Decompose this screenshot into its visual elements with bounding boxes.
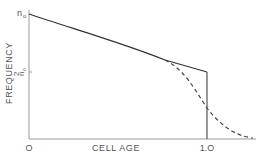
dashed-curve [165, 60, 253, 138]
x-axis-title: CELL AGE [92, 143, 140, 153]
y-label-n0-half: n o 2 [12, 68, 27, 76]
x-label-1: 1.O [200, 143, 215, 153]
x-label-origin: O [25, 143, 32, 153]
svg-text:o: o [21, 68, 27, 71]
svg-text:o: o [23, 13, 27, 19]
y-axis-title: FREQUENCY [4, 42, 14, 104]
cell-age-frequency-chart: n o n o 2 FREQUENCY O 1.O CELL AGE [0, 0, 260, 154]
solid-curve [29, 14, 207, 72]
svg-text:n: n [17, 8, 22, 18]
y-label-n0: n o [17, 8, 27, 19]
